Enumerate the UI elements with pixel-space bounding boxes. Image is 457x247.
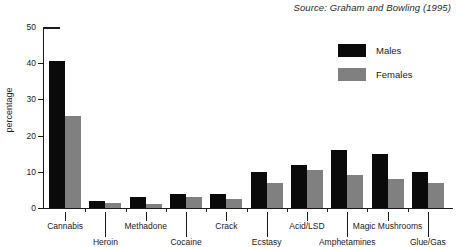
y-axis-tick-label: 20	[14, 131, 36, 141]
category-leader-line	[226, 212, 227, 221]
bar	[49, 61, 65, 208]
category-leader-line	[428, 212, 429, 237]
x-axis-category-label: Acid/LSD	[289, 221, 324, 231]
bar	[267, 183, 283, 208]
bar-group-container	[45, 27, 448, 208]
bar	[210, 194, 226, 208]
x-axis-tick	[367, 208, 368, 212]
x-axis-tick	[85, 208, 86, 212]
x-axis-category-label: Heroin	[93, 237, 118, 247]
category-leader-line	[105, 212, 106, 237]
bar	[186, 197, 202, 208]
bar	[146, 204, 162, 208]
y-axis-tick	[38, 208, 44, 209]
bar	[388, 179, 404, 208]
chart-figure: Source: Graham and Bowling (1995) Males …	[0, 0, 457, 247]
category-leader-line	[307, 212, 308, 221]
bar	[170, 194, 186, 208]
bar	[412, 172, 428, 208]
x-axis-tick	[327, 208, 328, 212]
category-leader-line	[146, 212, 147, 221]
y-axis-title: percentage	[4, 70, 14, 150]
bar	[428, 183, 444, 208]
category-leader-line	[65, 212, 66, 221]
x-axis-tick	[247, 208, 248, 212]
plot-area	[44, 27, 448, 208]
bar	[291, 165, 307, 208]
bar	[347, 175, 363, 208]
y-axis-tick-label: 0	[14, 203, 36, 213]
y-axis-tick-label: 50	[14, 22, 36, 32]
x-axis-tick	[408, 208, 409, 212]
x-axis-tick	[206, 208, 207, 212]
source-note: Source: Graham and Bowling (1995)	[294, 2, 452, 13]
x-axis-tick	[126, 208, 127, 212]
x-axis-tick	[166, 208, 167, 212]
x-axis-category-label: Glue/Gas	[410, 237, 446, 247]
x-axis-line	[43, 208, 453, 209]
category-leader-line	[388, 212, 389, 221]
x-axis-category-label: Crack	[215, 221, 237, 231]
x-axis-category-label: Amphetamines	[319, 237, 376, 247]
bar	[89, 201, 105, 208]
category-leader-line	[347, 212, 348, 237]
category-leader-line	[186, 212, 187, 237]
x-axis-category-label: Ecstasy	[252, 237, 282, 247]
x-axis-category-label: Cocaine	[170, 237, 201, 247]
y-axis-tick-label: 30	[14, 94, 36, 104]
bar	[105, 203, 121, 208]
y-axis-tick-label: 40	[14, 58, 36, 68]
x-axis-tick	[287, 208, 288, 212]
bar	[251, 172, 267, 208]
x-axis-category-label: Magic Mushrooms	[353, 221, 422, 231]
bar	[307, 170, 323, 208]
bar	[65, 116, 81, 208]
y-axis-tick-label: 10	[14, 167, 36, 177]
bar	[331, 150, 347, 208]
bar	[130, 197, 146, 208]
bar	[226, 199, 242, 208]
x-axis-category-label: Cannabis	[47, 221, 83, 231]
bar	[372, 154, 388, 208]
category-leader-line	[267, 212, 268, 237]
x-axis-category-label: Methadone	[124, 221, 167, 231]
